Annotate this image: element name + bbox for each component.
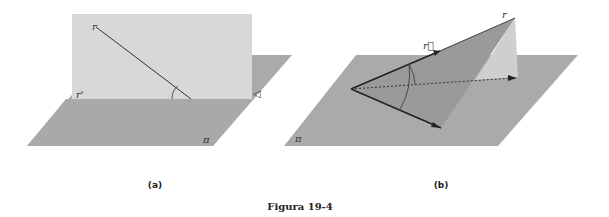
panel-b-caption: (b) bbox=[434, 180, 449, 190]
label-r-prime: r' bbox=[76, 89, 84, 100]
figure-caption: Figura 19-4 bbox=[267, 201, 332, 212]
angle-mark-icon: ◁ bbox=[253, 88, 261, 99]
label-pi: π bbox=[294, 133, 302, 144]
panel-a: r r' ◁ π bbox=[27, 14, 292, 146]
horizontal-plane-front bbox=[27, 99, 252, 146]
figure-canvas: r r' ◁ π r⃗ r π (a) (b) Figura 19-4 bbox=[0, 0, 609, 217]
label-r: r bbox=[502, 9, 508, 20]
label-vector-r: r⃗ bbox=[423, 40, 434, 51]
panel-b: r⃗ r π bbox=[284, 9, 578, 146]
panel-a-caption: (a) bbox=[148, 180, 162, 190]
vertical-plane bbox=[72, 14, 252, 99]
label-pi: π bbox=[202, 134, 210, 145]
